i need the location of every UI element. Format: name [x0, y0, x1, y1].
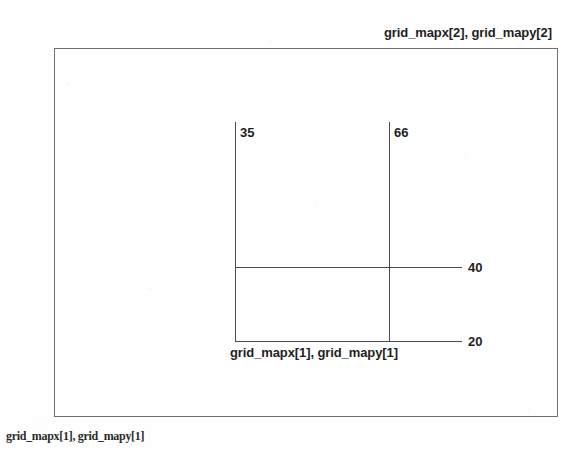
- value-label-left-column: 35: [240, 126, 254, 139]
- value-label-upper-row: 40: [468, 261, 482, 274]
- bottom-left-corner-label: grid_mapx[1], grid_mapy[1]: [6, 430, 144, 442]
- grid-map-outer-boundary: [54, 48, 558, 417]
- top-right-corner-label: grid_mapx[2], grid_mapy[2]: [384, 26, 552, 39]
- horizontal-line-lower: [235, 341, 462, 342]
- vertical-line-left: [235, 122, 236, 342]
- value-label-right-column: 66: [394, 126, 408, 139]
- inner-origin-label: grid_mapx[1], grid_mapy[1]: [230, 346, 398, 359]
- vertical-line-right: [389, 122, 390, 342]
- value-label-lower-row: 20: [468, 335, 482, 348]
- diagram-figure: grid_mapx[2], grid_mapy[2] 35 66 40 20 g…: [0, 0, 575, 466]
- horizontal-line-upper: [235, 267, 462, 268]
